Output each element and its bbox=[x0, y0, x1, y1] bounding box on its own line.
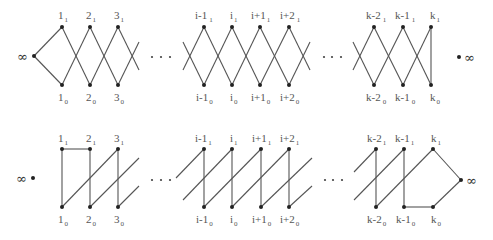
top-edges bbox=[34, 27, 431, 85]
svg-text:i0: i0 bbox=[230, 91, 238, 106]
svg-text:k0: k0 bbox=[430, 91, 441, 106]
node-i+2-0 bbox=[287, 83, 291, 87]
svg-text:30: 30 bbox=[114, 91, 125, 106]
svg-text:i+10: i+10 bbox=[251, 91, 271, 106]
bottom-labels: ∞ ∞ 11 21 31 i-11 i1 i+11 i+21 k-21 k-11… bbox=[16, 132, 477, 228]
node-k-2-0 bbox=[372, 83, 376, 87]
node-1-0 bbox=[60, 83, 64, 87]
svg-text:k-20: k-20 bbox=[366, 91, 387, 106]
svg-text:k1: k1 bbox=[430, 9, 441, 24]
node-2-1 bbox=[88, 25, 92, 29]
node-i-1-1 bbox=[202, 25, 206, 29]
svg-text:21: 21 bbox=[86, 9, 97, 24]
svg-text:i-10: i-10 bbox=[196, 91, 213, 106]
svg-text:k0: k0 bbox=[431, 213, 442, 228]
svg-text:20: 20 bbox=[86, 213, 97, 228]
node-k-1 bbox=[429, 25, 433, 29]
node-3-0 bbox=[116, 83, 120, 87]
svg-text:k-21: k-21 bbox=[367, 132, 387, 147]
node-2-1 bbox=[88, 147, 92, 151]
node-k-1-1 bbox=[402, 147, 406, 151]
node-k-1-1 bbox=[401, 25, 405, 29]
svg-text:30: 30 bbox=[114, 213, 125, 228]
node-k-2-1 bbox=[374, 147, 378, 151]
svg-text:10: 10 bbox=[58, 91, 69, 106]
svg-text:i-11: i-11 bbox=[195, 132, 212, 147]
svg-text:k1: k1 bbox=[431, 132, 442, 147]
svg-text:k-11: k-11 bbox=[395, 9, 416, 24]
svg-text:i+11: i+11 bbox=[252, 132, 272, 147]
node-3-1 bbox=[116, 147, 120, 151]
node-i-0 bbox=[230, 83, 234, 87]
node-i-1 bbox=[230, 147, 234, 151]
node-k-0 bbox=[431, 205, 435, 209]
node-1-1 bbox=[60, 25, 64, 29]
svg-text:10: 10 bbox=[58, 213, 69, 228]
node-3-1 bbox=[116, 25, 120, 29]
svg-text:21: 21 bbox=[86, 132, 97, 147]
node-i+2-1 bbox=[287, 147, 291, 151]
svg-text:i+20: i+20 bbox=[280, 213, 300, 228]
top-diagram: ∞ ∞ 11 21 31 i-11 i1 i+11 i+21 k-21 k-11… bbox=[17, 9, 475, 106]
node-i-1-0 bbox=[202, 83, 206, 87]
node-k-1 bbox=[431, 147, 435, 151]
svg-text:11: 11 bbox=[58, 132, 69, 147]
svg-text:k-21: k-21 bbox=[366, 9, 387, 24]
infinity-label-right: ∞ bbox=[464, 50, 475, 65]
svg-text:k-11: k-11 bbox=[395, 132, 415, 147]
svg-text:i1: i1 bbox=[230, 9, 238, 24]
bottom-diagram: ∞ ∞ 11 21 31 i-11 i1 i+11 i+21 k-21 k-11… bbox=[16, 132, 477, 228]
svg-text:i+20: i+20 bbox=[280, 91, 300, 106]
node-infinity-right bbox=[459, 178, 463, 182]
node-k-2-1 bbox=[372, 25, 376, 29]
node-i+1-0 bbox=[258, 83, 262, 87]
node-infinity-left bbox=[32, 54, 36, 58]
infinity-label-left: ∞ bbox=[17, 49, 28, 64]
svg-text:k-10: k-10 bbox=[395, 91, 416, 106]
bottom-ellipsis bbox=[151, 179, 343, 181]
svg-text:i+11: i+11 bbox=[251, 9, 271, 24]
node-k-2-0 bbox=[374, 205, 378, 209]
svg-text:k-20: k-20 bbox=[367, 213, 387, 228]
svg-text:i+21: i+21 bbox=[280, 9, 301, 24]
node-i-1 bbox=[230, 25, 234, 29]
node-2-0 bbox=[88, 83, 92, 87]
infinity-label-right: ∞ bbox=[466, 173, 477, 188]
svg-text:k-10: k-10 bbox=[396, 213, 416, 228]
node-2-0 bbox=[88, 205, 92, 209]
svg-text:i-10: i-10 bbox=[196, 213, 213, 228]
node-k-1-0 bbox=[402, 205, 406, 209]
label-base: 1 bbox=[58, 9, 64, 21]
node-i-1-0 bbox=[202, 205, 206, 209]
bottom-nodes bbox=[31, 147, 463, 209]
svg-text:11: 11 bbox=[58, 9, 69, 24]
node-k-0 bbox=[429, 83, 433, 87]
top-labels: ∞ ∞ 11 21 31 i-11 i1 i+11 i+21 k-21 k-11… bbox=[17, 9, 475, 106]
node-i+1-1 bbox=[258, 25, 262, 29]
node-1-0 bbox=[60, 205, 64, 209]
svg-text:31: 31 bbox=[114, 132, 125, 147]
svg-text:i+10: i+10 bbox=[252, 213, 272, 228]
node-i+1-0 bbox=[259, 205, 263, 209]
node-i-0 bbox=[230, 205, 234, 209]
bottom-edges bbox=[62, 149, 461, 207]
svg-text:i1: i1 bbox=[230, 132, 238, 147]
infinity-label-left: ∞ bbox=[16, 171, 27, 186]
node-i+1-1 bbox=[259, 147, 263, 151]
node-infinity-left bbox=[31, 176, 35, 180]
node-3-0 bbox=[116, 205, 120, 209]
svg-text:i0: i0 bbox=[230, 213, 238, 228]
node-i+2-0 bbox=[287, 205, 291, 209]
graph-diagram: ∞ ∞ 11 21 31 i-11 i1 i+11 i+21 k-21 k-11… bbox=[0, 0, 493, 240]
svg-text:31: 31 bbox=[114, 9, 125, 24]
svg-text:i-11: i-11 bbox=[195, 9, 213, 24]
node-infinity-right bbox=[457, 55, 461, 59]
node-k-1-0 bbox=[401, 83, 405, 87]
node-i+2-1 bbox=[287, 25, 291, 29]
svg-text:20: 20 bbox=[86, 91, 97, 106]
node-1-1 bbox=[60, 147, 64, 151]
svg-text:i+21: i+21 bbox=[280, 132, 300, 147]
node-i-1-1 bbox=[202, 147, 206, 151]
